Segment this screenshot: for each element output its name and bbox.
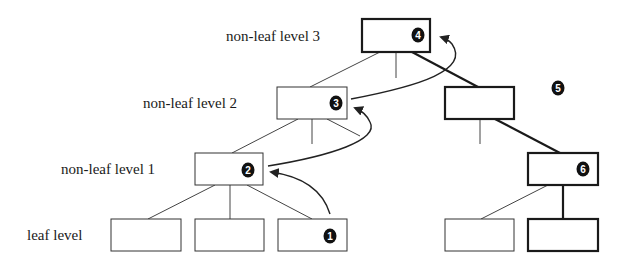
- step-marker-3: 3: [330, 96, 343, 111]
- edge-l2left-right-stub: [327, 119, 360, 136]
- step-marker-2-label: 2: [245, 165, 251, 176]
- edge-l2right-l1right: [495, 119, 560, 153]
- node-leaf-4: [445, 219, 514, 251]
- edge-root-l2left: [310, 52, 380, 87]
- node-leaf-3: [278, 219, 347, 251]
- node-leaf-5: [528, 219, 598, 251]
- edge-l2left-l1left: [232, 119, 298, 153]
- arrow-leaf3-to-l1left: [271, 172, 330, 214]
- edge-l1right-leaf4: [481, 185, 548, 219]
- label-leaf-level: leaf level: [27, 227, 82, 243]
- node-leaf-2: [195, 219, 264, 251]
- step-marker-1: 1: [324, 229, 337, 244]
- step-marker-4-label: 4: [415, 30, 421, 41]
- tree-diagram: non-leaf level 3 non-leaf level 2 non-le…: [0, 0, 632, 263]
- step-marker-6: 6: [577, 162, 590, 177]
- step-marker-6-label: 6: [580, 164, 586, 175]
- step-marker-5-label: 5: [555, 83, 561, 94]
- label-non-leaf-level-1: non-leaf level 1: [61, 161, 155, 177]
- node-l2-right: [445, 87, 514, 119]
- label-non-leaf-level-3: non-leaf level 3: [226, 28, 320, 44]
- step-marker-3-label: 3: [333, 98, 339, 109]
- step-marker-2: 2: [242, 163, 255, 178]
- label-non-leaf-level-2: non-leaf level 2: [143, 95, 237, 111]
- node-leaf-1: [111, 219, 181, 251]
- edge-l1left-leaf1: [148, 185, 215, 219]
- step-marker-4: 4: [412, 28, 425, 43]
- step-marker-1-label: 1: [327, 231, 333, 242]
- edge-l1left-leaf3: [247, 185, 312, 219]
- step-marker-5: 5: [552, 81, 565, 96]
